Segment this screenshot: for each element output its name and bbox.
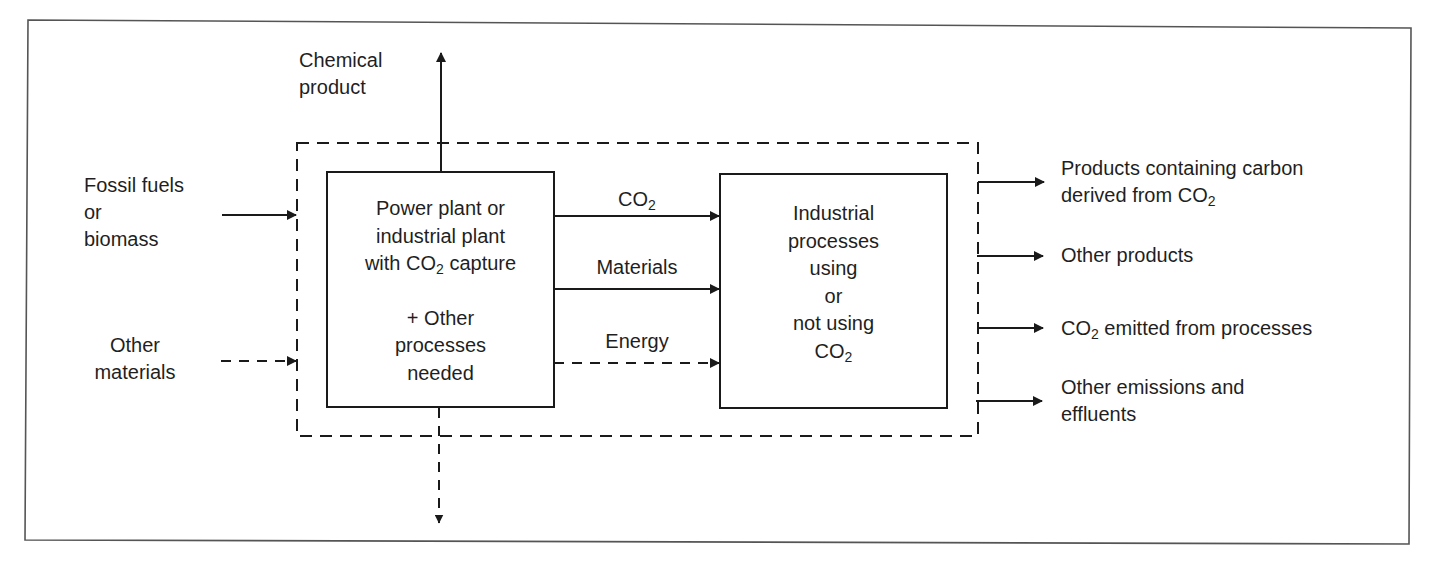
label-line: biomass [84,226,184,253]
box-text-line: processes [327,332,554,360]
label-line: effluents [1061,401,1244,428]
box-text-line: industrial plant [327,223,554,251]
power-plant-box-text: Power plant or industrial plant with CO2… [327,195,554,387]
label-line: Chemical [299,47,382,74]
subscript: 2 [436,261,444,277]
subscript: 2 [648,197,656,213]
label-other-products: Other products [1061,242,1193,269]
flow-diagram-canvas [0,0,1434,563]
text-part: Energy [605,330,668,352]
label-co2-emitted: CO2 emitted from processes [1061,315,1312,342]
box-text-line: using [720,255,947,283]
box-text-line: CO2 [720,338,947,366]
label-line: materials [80,359,190,386]
text-part: Other products [1061,244,1193,266]
text-part: capture [444,252,516,274]
label-line: Products containing carbon [1061,155,1303,182]
text-part: with CO [365,252,436,274]
box-text-line: with CO2 capture [327,250,554,278]
subscript: 2 [1208,193,1216,209]
label-line: product [299,74,382,101]
label-energy-flow: Energy [587,328,687,355]
box-text-line: processes [720,228,947,256]
label-other-emissions: Other emissions and effluents [1061,374,1244,428]
spacer [327,278,554,305]
text-part: CO [1061,317,1091,339]
label-line: Other emissions and [1061,374,1244,401]
subscript: 2 [845,349,853,365]
text-part: Materials [596,256,677,278]
text-part: CO [618,188,648,210]
box-text-line: needed [327,360,554,388]
box-text-line: Power plant or [327,195,554,223]
text-part: emitted from processes [1099,317,1312,339]
industrial-processes-box-text: Industrial processes using or not using … [720,200,947,365]
label-line: or [84,199,184,226]
label-other-materials: Other materials [80,332,190,386]
label-line: derived from CO2 [1061,182,1303,209]
box-text-line: or [720,283,947,311]
box-text-line: Industrial [720,200,947,228]
label-materials-flow: Materials [577,254,697,281]
label-line: Other [80,332,190,359]
box-text-line: not using [720,310,947,338]
label-line: Fossil fuels [84,172,184,199]
box-text-line: + Other [327,305,554,333]
text-part: derived from CO [1061,184,1208,206]
label-fossil-fuels: Fossil fuels or biomass [84,172,184,253]
label-co2-flow: CO2 [587,186,687,213]
subscript: 2 [1091,326,1099,342]
outer-frame [25,20,1411,544]
label-chemical-product: Chemical product [299,47,382,101]
label-products-carbon: Products containing carbon derived from … [1061,155,1303,209]
text-part: CO [815,340,845,362]
